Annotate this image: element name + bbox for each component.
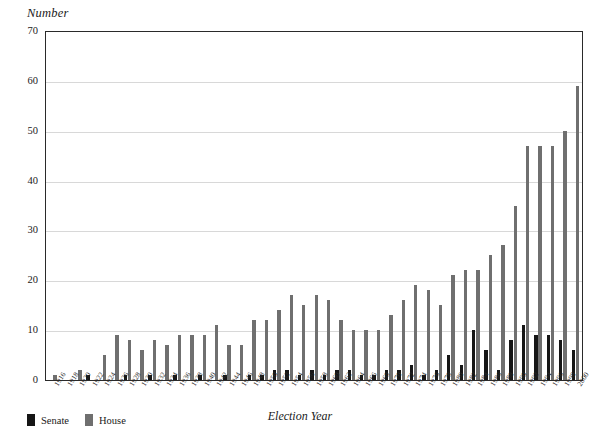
bar-group (196, 31, 208, 380)
bar-group (183, 31, 195, 380)
bar-group (283, 31, 295, 380)
bar-house (252, 320, 255, 380)
bar-group (258, 31, 270, 380)
bar-group (420, 31, 432, 380)
bar-group (333, 31, 345, 380)
bar-house (576, 86, 579, 380)
legend-swatch-senate-icon (27, 414, 35, 426)
bar-house (414, 285, 417, 380)
bar-group (445, 31, 457, 380)
legend-item-senate: Senate (27, 414, 69, 426)
bar-group (507, 31, 519, 380)
bar-house (538, 146, 541, 380)
bar-series-group (47, 31, 582, 380)
bar-house (327, 300, 330, 380)
bar-house (402, 300, 405, 380)
bar-house (389, 315, 392, 380)
y-tick-label: 0 (14, 374, 38, 385)
bar-group (557, 31, 569, 380)
bar-group (71, 31, 83, 380)
bar-group (96, 31, 108, 380)
bar-group (47, 31, 59, 380)
bar-house (427, 290, 430, 380)
bar-house (364, 330, 367, 380)
bar-group (544, 31, 556, 380)
bar-group (233, 31, 245, 380)
bar-house (514, 206, 517, 381)
y-tick-label: 60 (14, 75, 38, 86)
bar-group (482, 31, 494, 380)
bar-house (339, 320, 342, 380)
bar-group (457, 31, 469, 380)
bar-group (432, 31, 444, 380)
bar-group (84, 31, 96, 380)
bar-house (563, 131, 566, 380)
y-tick-label: 20 (14, 274, 38, 285)
bar-house (377, 330, 380, 380)
bar-house (526, 146, 529, 380)
bar-house (439, 305, 442, 380)
bar-group (308, 31, 320, 380)
y-tick-label: 40 (14, 175, 38, 186)
bar-group (221, 31, 233, 380)
bar-group (121, 31, 133, 380)
bar-group (519, 31, 531, 380)
bar-group (569, 31, 581, 380)
bar-house (464, 270, 467, 380)
bar-group (271, 31, 283, 380)
legend-swatch-house-icon (85, 414, 93, 426)
bar-house (501, 245, 504, 380)
legend-item-house: House (85, 414, 126, 426)
y-tick-label: 30 (14, 224, 38, 235)
bar-group (208, 31, 220, 380)
bar-group (470, 31, 482, 380)
bar-group (370, 31, 382, 380)
bar-house (476, 270, 479, 380)
y-tick-label: 70 (14, 25, 38, 36)
bar-group (159, 31, 171, 380)
bar-group (383, 31, 395, 380)
bar-group (134, 31, 146, 380)
bar-group (407, 31, 419, 380)
chart-container: Number 010203040506070 19161918192019221… (0, 0, 600, 440)
bar-group (171, 31, 183, 380)
bar-house (302, 305, 305, 380)
bar-house (290, 295, 293, 380)
legend-label-house: House (99, 415, 126, 426)
legend: Senate House (27, 414, 126, 426)
bar-house (277, 310, 280, 380)
y-tick-label: 50 (14, 125, 38, 136)
bar-house (489, 255, 492, 380)
bar-group (295, 31, 307, 380)
bar-group (345, 31, 357, 380)
bar-house (215, 325, 218, 380)
bar-group (146, 31, 158, 380)
bar-house (451, 275, 454, 380)
bar-group (320, 31, 332, 380)
bar-group (109, 31, 121, 380)
bar-house (265, 320, 268, 380)
legend-label-senate: Senate (41, 415, 69, 426)
bar-group (246, 31, 258, 380)
bar-house (551, 146, 554, 380)
bar-group (495, 31, 507, 380)
bar-group (395, 31, 407, 380)
bar-house (352, 330, 355, 380)
bar-group (59, 31, 71, 380)
bar-group (532, 31, 544, 380)
y-tick-label: 10 (14, 324, 38, 335)
y-axis-title: Number (27, 6, 68, 21)
bar-house (315, 295, 318, 380)
bar-group (358, 31, 370, 380)
